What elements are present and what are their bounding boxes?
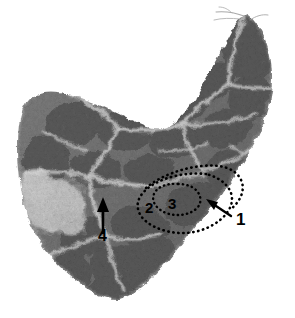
histology-figure: 1 2 3 4 [0, 0, 295, 318]
label-1: 1 [236, 211, 245, 228]
coarse-grain [0, 0, 295, 318]
capsule-strand [214, 7, 268, 20]
label-2: 2 [145, 200, 153, 215]
label-3: 3 [168, 196, 176, 211]
tissue-section [0, 0, 295, 318]
label-4: 4 [98, 228, 107, 244]
micrograph-canvas [0, 0, 295, 318]
